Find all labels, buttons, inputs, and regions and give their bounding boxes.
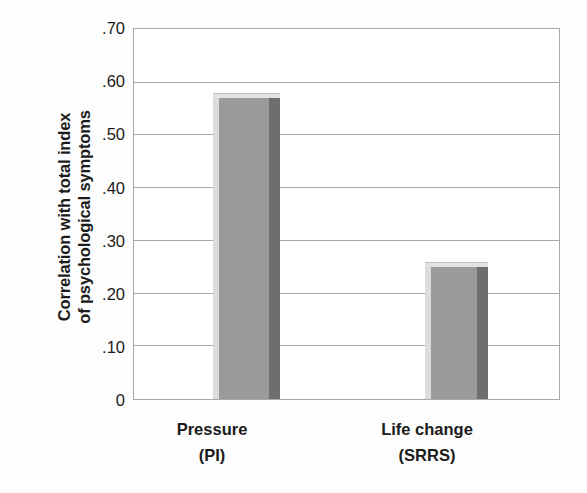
y-tick-label-10: .10	[65, 339, 125, 356]
gridline-10	[134, 345, 559, 346]
bar-life-change-front-face	[431, 267, 477, 399]
bar-life-change[interactable]	[425, 262, 488, 399]
bar-pressure-right-edge	[269, 98, 280, 399]
gridline-20	[134, 293, 559, 294]
gridline-50	[134, 134, 559, 135]
y-tick-label-70: .70	[65, 20, 125, 37]
y-tick-label-30: .30	[65, 233, 125, 250]
bar-pressure[interactable]	[213, 93, 280, 399]
gridline-30	[134, 240, 559, 241]
x-axis-label-life-change-sub: (SRRS)	[352, 443, 502, 469]
y-tick-label-20: .20	[65, 286, 125, 303]
gridline-40	[134, 187, 559, 188]
x-axis-label-pressure: Pressure (PI)	[142, 417, 282, 468]
y-tick-label-60: .60	[65, 73, 125, 90]
plot-area	[133, 28, 560, 400]
bar-chart-figure: Correlation with total index of psycholo…	[0, 0, 587, 493]
gridline-60	[134, 82, 559, 83]
y-tick-label-50: .50	[65, 126, 125, 143]
x-axis-label-life-change-main: Life change	[381, 420, 473, 438]
x-axis-label-pressure-main: Pressure	[177, 420, 248, 438]
y-tick-label-0: 0	[65, 392, 125, 409]
bar-life-change-right-edge	[477, 267, 488, 399]
x-axis-label-pressure-sub: (PI)	[142, 443, 282, 469]
y-tick-label-40: .40	[65, 180, 125, 197]
bar-pressure-front-face	[219, 98, 269, 399]
x-axis-label-life-change: Life change (SRRS)	[352, 417, 502, 468]
